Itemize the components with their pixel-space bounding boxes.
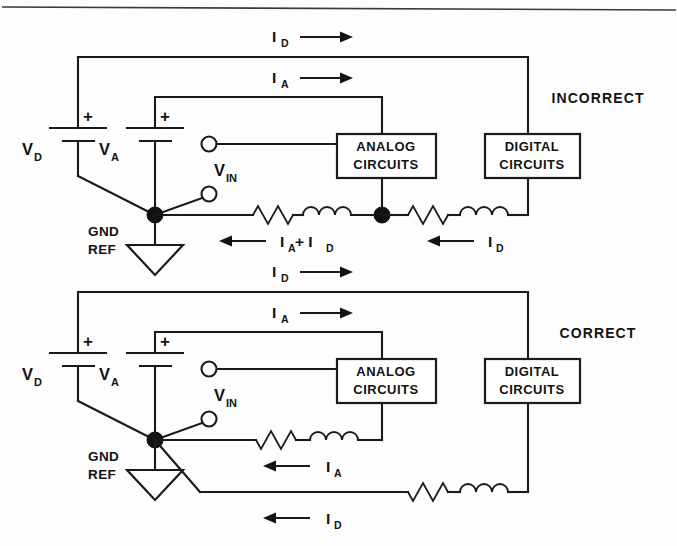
ground-symbol-2: [127, 470, 183, 500]
gnd-ref-line1: GND: [88, 224, 119, 239]
page-rule: [2, 7, 676, 10]
current-label-ia-top-2-sub: A: [281, 313, 289, 325]
battery-va-label-2: V: [99, 365, 110, 383]
analog-block-2-line2: CIRCUITS: [353, 382, 418, 397]
inductor-analog-return: [310, 432, 358, 440]
current-arrow-ia-return-2: [263, 461, 310, 472]
return-current-label-1-extra: + I: [295, 233, 313, 250]
current-label-id-top-2: I: [272, 263, 276, 280]
vd-return-to-star-2: [78, 401, 155, 440]
current-label-ia-top-2: I: [272, 304, 276, 321]
current-label-ia-top-sub: A: [281, 78, 289, 90]
resistor-2: [408, 206, 448, 224]
current-arrow-ia-top-2: [300, 308, 353, 319]
return-current-label-ia-2-sub: A: [334, 467, 342, 479]
circuit-correct: I D I A + V D + V A: [22, 263, 636, 531]
battery-va-2: [127, 353, 183, 440]
rail-va-top-2: [155, 332, 382, 359]
battery-va-label: V: [99, 140, 110, 158]
battery-va-plus: +: [160, 107, 170, 126]
verdict-incorrect: INCORRECT: [551, 90, 644, 106]
figure-canvas: I D I A + V D + V A: [0, 0, 677, 546]
vin-terminal-top-circle: [202, 137, 217, 152]
return-current-label-1: I: [280, 233, 284, 250]
resistor-analog-return: [256, 431, 296, 449]
return-current-label-id-2-sub: D: [334, 519, 342, 531]
vin-label-2-sub: IN: [226, 397, 237, 409]
current-label-id-top-sub: D: [281, 37, 289, 49]
return-current-label-2-sub: D: [496, 242, 504, 254]
current-arrow-id-top-2: [300, 267, 353, 278]
battery-vd-label-2-sub: D: [34, 376, 42, 388]
analog-block-line1: ANALOG: [356, 139, 415, 154]
battery-vd-2: [50, 353, 106, 401]
return-current-label-id-2: I: [326, 510, 330, 527]
current-label-ia-top: I: [272, 69, 276, 86]
vin-terminals: [155, 137, 337, 216]
resistor-digital-return: [408, 483, 448, 501]
battery-vd-label-sub: D: [34, 151, 42, 163]
return-current-label-ia-2: I: [326, 458, 330, 475]
battery-vd-label: V: [22, 140, 33, 158]
battery-vd-plus: +: [83, 107, 93, 126]
vin-terminal-bottom-circle-2: [202, 412, 217, 427]
resistor-1: [253, 206, 293, 224]
current-label-id-top: I: [272, 28, 276, 45]
battery-vd-label-2: V: [22, 365, 33, 383]
battery-vd: [50, 128, 106, 176]
digital-block-2-line2: CIRCUITS: [499, 382, 564, 397]
gnd-ref-line1-2: GND: [88, 449, 119, 464]
digital-block-line2: CIRCUITS: [499, 157, 564, 172]
digital-block-2-line1: DIGITAL: [505, 364, 560, 379]
vin-label: V: [214, 161, 225, 179]
battery-va-plus-2: +: [160, 332, 170, 351]
vin-label-sub: IN: [226, 172, 237, 184]
gnd-ref-line2-2: REF: [88, 467, 116, 482]
inductor-digital-return: [460, 484, 508, 492]
vd-return-to-star: [78, 176, 155, 215]
vin-label-2: V: [214, 386, 225, 404]
current-label-id-top-2-sub: D: [281, 272, 289, 284]
battery-va-label-2-sub: A: [111, 376, 119, 388]
battery-va: [127, 128, 183, 215]
return-current-label-2: I: [488, 233, 492, 250]
vin-terminal-bottom-circle: [202, 187, 217, 202]
battery-vd-plus-2: +: [83, 332, 93, 351]
digital-block-line1: DIGITAL: [505, 139, 560, 154]
return-current-label-1-extra-sub: D: [326, 242, 334, 254]
current-arrow-ia-id-return: [219, 236, 266, 247]
analog-block-line2: CIRCUITS: [353, 157, 418, 172]
battery-va-label-sub: A: [111, 151, 119, 163]
ground-symbol: [127, 245, 183, 275]
current-arrow-id-top: [300, 32, 353, 43]
current-arrow-ia-top: [300, 73, 353, 84]
rail-vd-top: [78, 57, 528, 134]
inductor-1: [303, 207, 351, 215]
gnd-ref-line2: REF: [88, 242, 116, 257]
rail-vd-top-2: [78, 292, 528, 359]
current-arrow-id-return: [427, 236, 474, 247]
circuit-incorrect: I D I A + V D + V A: [22, 28, 645, 275]
verdict-correct: CORRECT: [560, 325, 637, 341]
vin-terminal-top-circle-2: [202, 362, 217, 377]
rail-va-top: [155, 97, 382, 134]
current-arrow-id-return-2: [263, 513, 310, 524]
analog-block-2-line1: ANALOG: [356, 364, 415, 379]
vin-terminals-2: [155, 362, 337, 441]
inductor-2: [460, 207, 508, 215]
